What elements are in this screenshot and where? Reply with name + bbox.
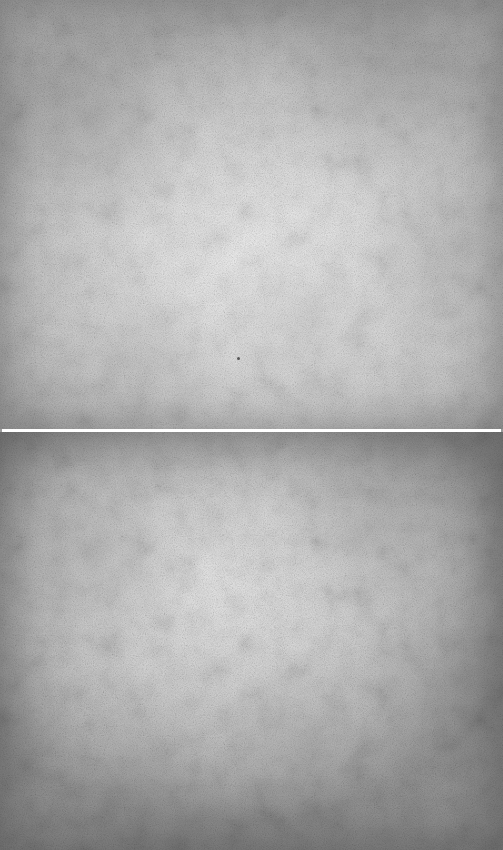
texture-canvas [0,0,503,850]
vignette-overlay [0,432,503,850]
dust-speck [237,357,240,360]
vignette-overlay [0,0,503,429]
paper-texture-top-panel [0,0,503,429]
paper-texture-bottom-panel [0,432,503,850]
